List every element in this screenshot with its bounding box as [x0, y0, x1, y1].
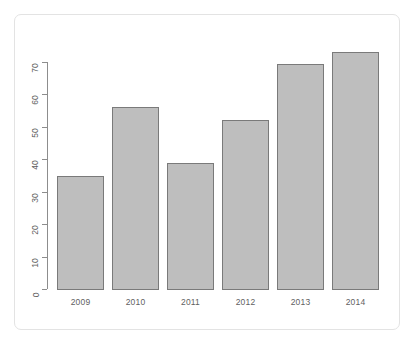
y-axis-tick-label: 50: [13, 122, 39, 132]
bar-2011[interactable]: [167, 163, 214, 290]
x-axis-tick-label-2012: 2012: [222, 297, 269, 307]
y-axis-tick-label-text: 70: [29, 63, 39, 72]
y-axis-tick-40: [42, 159, 47, 160]
y-axis-tick-30: [42, 192, 47, 193]
y-axis-tick-label: 40: [13, 154, 39, 164]
y-axis-tick-label-text: 60: [29, 96, 39, 105]
bar-2013[interactable]: [277, 64, 324, 290]
y-axis-tick-label: 10: [13, 252, 39, 262]
y-axis-tick-50: [42, 127, 47, 128]
x-axis-tick-label-2013: 2013: [277, 297, 324, 307]
x-axis-tick-label-2014: 2014: [332, 297, 379, 307]
y-axis-tick-label-text: 50: [29, 128, 39, 137]
y-axis-tick-label: 30: [13, 187, 39, 197]
bar-chart-plot-area: 010203040506070 200920102011201220132014: [0, 0, 415, 347]
y-axis-tick-20: [42, 224, 47, 225]
x-axis-tick-label-2009: 2009: [57, 297, 104, 307]
y-axis-tick-label-text: 30: [29, 193, 39, 202]
bar-2009[interactable]: [57, 176, 104, 291]
y-axis-tick-label: 60: [13, 89, 39, 99]
bar-2014[interactable]: [332, 52, 379, 290]
y-axis-tick-0: [42, 289, 47, 290]
y-axis-tick-label-text: 20: [29, 225, 39, 234]
y-axis-tick-label: 20: [13, 219, 39, 229]
y-axis-tick-70: [42, 62, 47, 63]
bar-2010[interactable]: [112, 107, 159, 290]
y-axis-tick-60: [42, 94, 47, 95]
y-axis-line: [47, 62, 48, 289]
x-axis-tick-label-2011: 2011: [167, 297, 214, 307]
y-axis-tick-label-text: 40: [29, 161, 39, 170]
x-axis-tick-label-2010: 2010: [112, 297, 159, 307]
y-axis-tick-label-text: 10: [29, 258, 39, 267]
y-axis-tick-label: 70: [13, 57, 39, 67]
y-axis-tick-label: 0: [13, 284, 39, 294]
bar-2012[interactable]: [222, 120, 269, 290]
y-axis-tick-10: [42, 257, 47, 258]
y-axis-tick-label-text: 0: [32, 293, 42, 298]
